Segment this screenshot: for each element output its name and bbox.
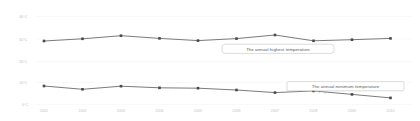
top-marker-2005 — [197, 39, 200, 42]
top-annotation-callout: The annual highest temperature — [222, 44, 334, 53]
top-series-line — [44, 35, 391, 41]
dual-line-temperature-chart: 40°C 30°C 20°C The annual highest temper… — [0, 0, 420, 121]
xtick-label-2007: 2007 — [271, 109, 279, 113]
top-marker-2009 — [351, 38, 354, 41]
bottom-ytick-label-10: 10°C — [19, 81, 28, 85]
xtick-label-2004: 2004 — [155, 109, 163, 113]
xtick-label-2003: 2003 — [117, 109, 125, 113]
top-marker-2003 — [120, 34, 123, 37]
bottom-marker-2005 — [197, 87, 200, 90]
bottom-marker-2009 — [351, 93, 354, 96]
xtick-label-2006: 2006 — [232, 109, 240, 113]
bottom-marker-2010 — [389, 97, 392, 100]
top-ytick-label-30: 30°C — [19, 38, 28, 42]
bottom-marker-2004 — [158, 87, 161, 90]
bottom-callout-text: The annual minimum temperature — [312, 84, 380, 89]
top-marker-2004 — [158, 37, 161, 40]
bottom-marker-2001 — [43, 85, 46, 88]
bottom-ytick-label-0: 0°C — [22, 103, 29, 107]
top-ytick-label-40: 40°C — [19, 15, 28, 19]
xtick-label-2001: 2001 — [40, 109, 48, 113]
xtick-label-2008: 2008 — [309, 109, 317, 113]
top-chart-group: 40°C 30°C 20°C The annual highest temper… — [19, 15, 412, 64]
top-marker-2010 — [389, 37, 392, 40]
top-marker-2002 — [81, 38, 84, 41]
temperature-chart-panel: 40°C 30°C 20°C The annual highest temper… — [0, 0, 420, 121]
xtick-label-2005: 2005 — [194, 109, 202, 113]
xtick-label-2010: 2010 — [386, 109, 394, 113]
top-callout-text: The annual highest temperature — [246, 47, 310, 52]
bottom-chart-group: 10°C 0°C The annual minimum temperature — [19, 81, 412, 107]
top-marker-2007 — [274, 34, 277, 37]
bottom-marker-2002 — [81, 88, 84, 91]
xtick-label-2009: 2009 — [348, 109, 356, 113]
xtick-label-2002: 2002 — [78, 109, 86, 113]
bottom-marker-2003 — [120, 85, 123, 88]
top-marker-2006 — [235, 37, 238, 40]
bottom-marker-2006 — [235, 89, 238, 92]
top-ytick-label-20: 20°C — [19, 60, 28, 64]
top-marker-2008 — [312, 40, 315, 43]
bottom-marker-2007 — [274, 91, 277, 94]
top-marker-2001 — [43, 40, 46, 43]
x-axis-labels-group: 2001 2002 2003 2004 2005 2006 2007 2008 … — [40, 109, 395, 113]
bottom-annotation-callout: The annual minimum temperature — [287, 82, 404, 94]
